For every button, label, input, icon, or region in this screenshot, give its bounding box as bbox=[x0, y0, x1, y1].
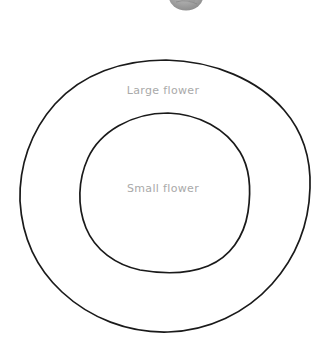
nested-circles-diagram bbox=[0, 0, 326, 345]
large-flower-label: Large flower bbox=[0, 85, 326, 96]
small-flower-label: Small flower bbox=[0, 183, 326, 194]
large-flower-circle bbox=[20, 60, 310, 332]
